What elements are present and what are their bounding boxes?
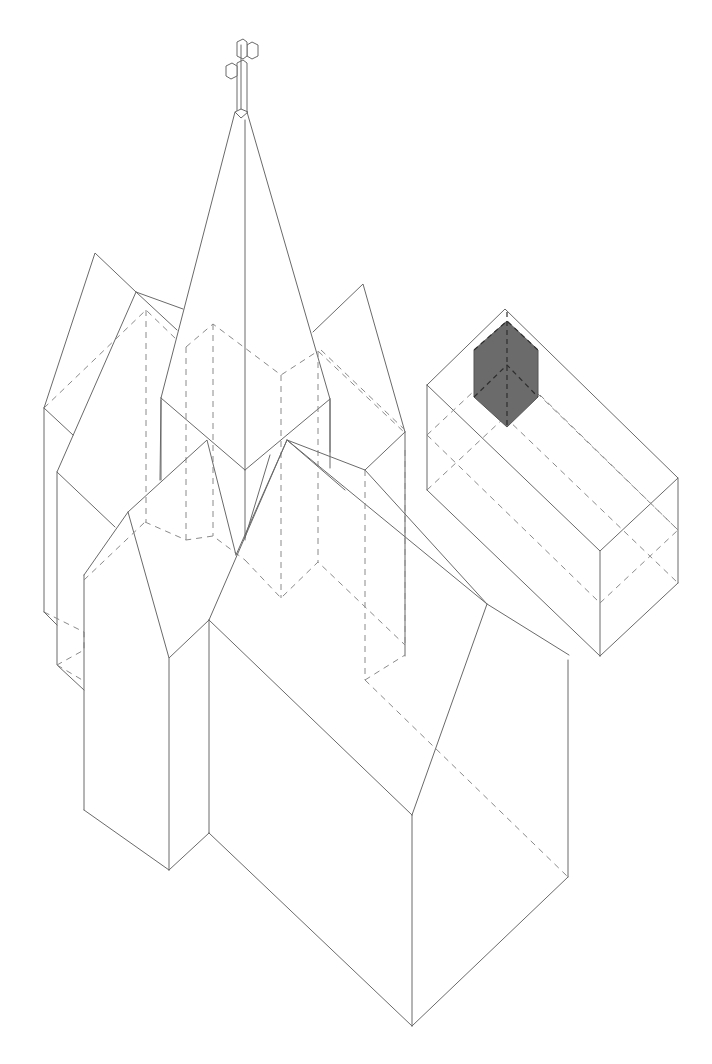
detached-rectangular-block [427, 309, 678, 656]
cross-icon [226, 39, 258, 118]
left-gabled-tower [44, 253, 183, 690]
isometric-drawing [0, 0, 712, 1064]
main-nave-block [209, 440, 569, 1026]
right-gabled-tower [313, 284, 405, 656]
central-spire [145, 112, 405, 598]
